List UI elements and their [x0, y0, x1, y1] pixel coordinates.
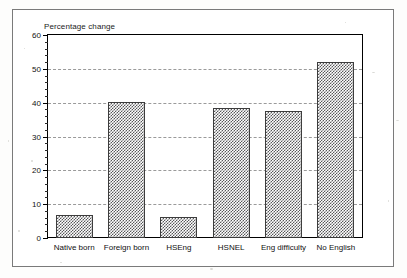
gridline-30: [48, 137, 362, 138]
y-tick-minor-44: [45, 89, 48, 90]
y-tick-minor-14: [45, 191, 48, 192]
y-tick-minor-12: [45, 197, 48, 198]
y-tick-minor-46: [45, 82, 48, 83]
y-axis-title: Percentage change: [44, 22, 115, 31]
bar-hsnel: [213, 108, 250, 238]
y-tick-minor-6: [45, 218, 48, 219]
scan-speck: [60, 262, 62, 263]
scan-speck: [345, 22, 346, 23]
scan-speck: [388, 200, 389, 202]
y-axis-label-60: 60: [32, 31, 41, 40]
scanned-page: Percentage change 0102030405060 Native b…: [0, 0, 407, 278]
gridline-20: [48, 170, 362, 171]
y-tick-minor-34: [45, 123, 48, 124]
y-axis-label-20: 20: [32, 166, 41, 175]
y-axis-label-10: 10: [32, 200, 41, 209]
y-tick-major-30: [43, 137, 48, 138]
x-axis-label-foreign-born: Foreign born: [104, 243, 149, 252]
y-tick-major-10: [43, 204, 48, 205]
x-axis-label-hseng: HSEng: [166, 243, 191, 252]
x-axis-label-hsnel: HSNEL: [218, 243, 245, 252]
scan-speck: [210, 268, 213, 270]
y-tick-minor-24: [45, 157, 48, 158]
gridline-50: [48, 69, 362, 70]
y-tick-minor-18: [45, 177, 48, 178]
gridline-10: [48, 204, 362, 205]
y-tick-minor-22: [45, 164, 48, 165]
scan-speck: [31, 160, 33, 162]
y-tick-major-50: [43, 69, 48, 70]
bar-no-english: [317, 62, 354, 238]
y-tick-minor-56: [45, 49, 48, 50]
y-tick-minor-8: [45, 211, 48, 212]
y-tick-minor-54: [45, 55, 48, 56]
bar-native-born: [56, 215, 93, 238]
y-tick-minor-58: [45, 42, 48, 43]
y-tick-minor-32: [45, 130, 48, 131]
gridline-40: [48, 103, 362, 104]
x-axis-label-no-english: No English: [316, 243, 355, 252]
y-axis-label-0: 0: [37, 234, 41, 243]
scan-speck: [18, 230, 20, 232]
scan-speck: [396, 120, 399, 121]
y-tick-minor-42: [45, 96, 48, 97]
x-axis-label-eng-difficulty: Eng difficulty: [261, 243, 306, 252]
plot-area: 0102030405060: [48, 35, 362, 238]
scan-speck: [24, 48, 25, 49]
y-tick-minor-38: [45, 109, 48, 110]
y-tick-minor-36: [45, 116, 48, 117]
y-tick-minor-28: [45, 143, 48, 144]
y-tick-major-60: [43, 35, 48, 36]
y-tick-minor-26: [45, 150, 48, 151]
y-tick-minor-4: [45, 224, 48, 225]
y-axis-label-50: 50: [32, 64, 41, 73]
y-axis-label-40: 40: [32, 98, 41, 107]
x-axis-label-native-born: Native born: [54, 243, 95, 252]
y-tick-minor-16: [45, 184, 48, 185]
scan-speck: [372, 72, 375, 73]
bar-hseng: [160, 217, 197, 238]
y-tick-minor-2: [45, 231, 48, 232]
y-tick-major-40: [43, 103, 48, 104]
scan-speck: [8, 140, 9, 142]
y-tick-major-0: [43, 238, 48, 239]
y-axis-label-30: 30: [32, 132, 41, 141]
bar-eng-difficulty: [265, 111, 302, 238]
y-tick-minor-48: [45, 76, 48, 77]
y-tick-major-20: [43, 170, 48, 171]
bar-foreign-born: [108, 102, 145, 238]
y-tick-minor-52: [45, 62, 48, 63]
